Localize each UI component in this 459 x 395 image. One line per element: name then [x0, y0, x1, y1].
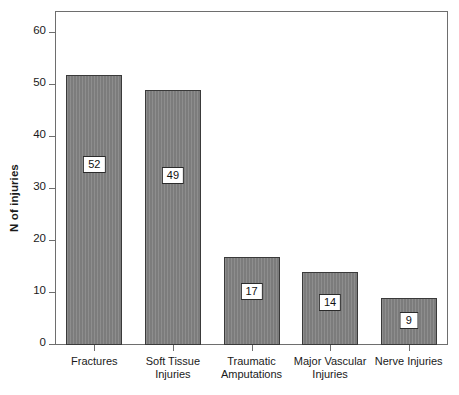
x-axis-tick-label-line: Injuries	[294, 368, 367, 381]
x-axis-tick-label: Nerve Injuries	[375, 355, 443, 368]
x-axis-tick-label-line: Fractures	[71, 355, 117, 367]
bar-value-label: 9	[399, 312, 418, 329]
y-axis-tick-label: 30	[33, 181, 46, 193]
bar	[66, 75, 122, 345]
y-axis-tick-label: 10	[33, 285, 46, 297]
y-axis-tick-mark	[49, 136, 55, 137]
x-axis-tick-label-line: Amputations	[221, 368, 282, 381]
x-axis-tick-mark	[94, 345, 95, 351]
bar-value-label: 14	[319, 294, 341, 311]
x-axis-tick-mark	[330, 345, 331, 351]
bar-chart: N of injuries 0102030405060 FracturesSof…	[0, 0, 459, 395]
y-axis-title-label: N of injuries	[8, 164, 20, 232]
x-axis-tick-mark	[409, 345, 410, 351]
y-axis-title: N of injuries	[4, 0, 24, 395]
x-axis-tick-label: Major VascularInjuries	[294, 355, 367, 381]
y-axis-tick-mark	[49, 32, 55, 33]
y-axis-tick-mark	[49, 292, 55, 293]
bar-value-label: 52	[83, 156, 105, 173]
bar	[224, 257, 280, 345]
y-axis-tick-mark	[49, 188, 55, 189]
x-axis-tick-label: Soft TissueInjuries	[146, 355, 200, 381]
y-axis-tick-label: 40	[33, 129, 46, 141]
x-axis-tick-label-line: Injuries	[146, 368, 200, 381]
y-axis-tick-mark	[49, 344, 55, 345]
bar-value-label: 49	[162, 167, 184, 184]
y-axis-tick-label: 20	[33, 233, 46, 245]
x-axis-tick-mark	[173, 345, 174, 351]
x-axis-tick-mark	[252, 345, 253, 351]
y-axis-tick-mark	[49, 240, 55, 241]
y-axis-tick-mark	[49, 84, 55, 85]
bar-value-label: 17	[240, 283, 262, 300]
x-axis-tick-label-line: Traumatic	[227, 355, 276, 367]
x-axis-tick-label-line: Major Vascular	[294, 355, 367, 367]
y-axis-tick-label: 60	[33, 25, 46, 37]
x-axis-tick-label-line: Nerve Injuries	[375, 355, 443, 367]
x-axis-tick-label: TraumaticAmputations	[221, 355, 282, 381]
bar	[145, 90, 201, 345]
y-axis-tick-label: 0	[40, 337, 46, 349]
x-axis-tick-label-line: Soft Tissue	[146, 355, 200, 367]
y-axis-tick-label: 50	[33, 77, 46, 89]
x-axis-tick-label: Fractures	[71, 355, 117, 368]
